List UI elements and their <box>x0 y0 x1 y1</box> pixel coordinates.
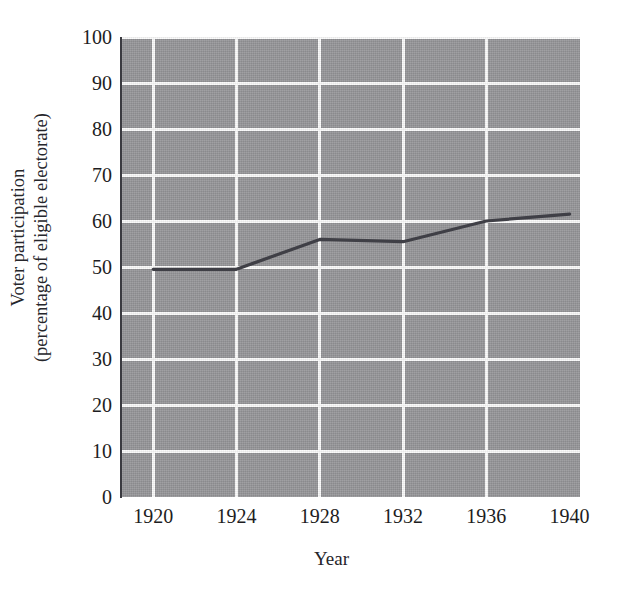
data-line-layer <box>122 37 580 497</box>
y-axis-title-line-1: Voter participation <box>7 0 30 478</box>
x-axis-tick-label: 1920 <box>108 505 198 528</box>
y-axis-title: Voter participation (percentage of eligi… <box>7 0 52 478</box>
x-axis-tick-label: 1928 <box>275 505 365 528</box>
y-axis-title-container: Voter participation (percentage of eligi… <box>0 0 60 497</box>
y-axis-tick-label: 20 <box>56 395 112 415</box>
y-axis-tick-label: 10 <box>56 441 112 461</box>
y-axis-tick-labels: 1009080706050403020100 <box>56 0 112 497</box>
x-axis-tick-labels: 192019241928193219361940 <box>0 505 617 539</box>
y-axis-tick-label: 50 <box>56 257 112 277</box>
y-axis-tick-label: 70 <box>56 165 112 185</box>
y-axis-tick-label: 90 <box>56 73 112 93</box>
y-axis-tick-label: 60 <box>56 211 112 231</box>
y-axis-title-line-2: (percentage of eligible electorate) <box>30 0 53 478</box>
y-axis-tick-label: 40 <box>56 303 112 323</box>
y-axis-tick-label: 30 <box>56 349 112 369</box>
x-axis-tick-label: 1936 <box>441 505 531 528</box>
y-axis-tick-label: 0 <box>56 487 112 507</box>
plot-area <box>122 37 580 497</box>
x-axis-title: Year <box>0 548 617 570</box>
x-axis-tick-label: 1932 <box>358 505 448 528</box>
voter-participation-line <box>153 214 569 269</box>
y-axis-tick-label: 80 <box>56 119 112 139</box>
x-axis-tick-label: 1924 <box>192 505 282 528</box>
y-axis-tick-label: 100 <box>56 27 112 47</box>
x-axis-tick-label: 1940 <box>525 505 615 528</box>
x-axis-title-text: Year <box>314 548 349 569</box>
chart-figure: Voter participation (percentage of eligi… <box>0 0 617 591</box>
